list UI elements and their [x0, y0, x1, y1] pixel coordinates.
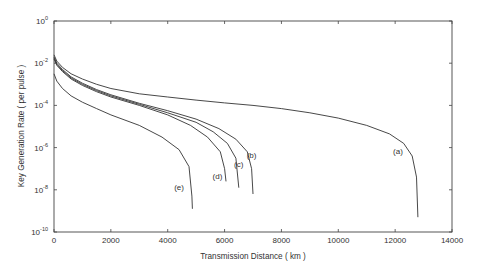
y-tick-label: 10-6 — [34, 142, 48, 153]
curve-c — [54, 58, 239, 188]
axis-ticks: 0200040006000800010000120001400010010-21… — [31, 15, 464, 245]
curve-label: (b) — [247, 151, 257, 160]
x-tick-label: 10000 — [327, 236, 350, 245]
x-tick-label: 8000 — [273, 236, 291, 245]
curve-b — [54, 57, 253, 194]
key-rate-vs-distance-chart: (a)(b)(c)(d)(e) 020004000600080001000012… — [0, 0, 484, 269]
y-tick-label: 10-8 — [34, 184, 48, 195]
curve-labels: (a)(b)(c)(d)(e) — [174, 147, 403, 192]
x-axis-label: Transmission Distance ( km ) — [200, 252, 306, 261]
y-tick-label: 10-10 — [31, 226, 48, 237]
x-tick-label: 0 — [52, 236, 57, 245]
x-tick-label: 4000 — [159, 236, 177, 245]
y-axis-label: Key Generation Rate ( per pulse ) — [17, 65, 26, 188]
x-tick-label: 2000 — [102, 236, 120, 245]
curve-e — [54, 74, 192, 209]
plot-canvas: (a)(b)(c)(d)(e) 020004000600080001000012… — [0, 0, 484, 269]
y-tick-label: 10-4 — [34, 99, 48, 110]
data-curves — [54, 55, 418, 217]
y-tick-label: 10-2 — [34, 57, 48, 68]
curve-label: (c) — [234, 160, 244, 169]
x-tick-label: 6000 — [216, 236, 234, 245]
curve-label: (e) — [174, 183, 184, 192]
axes-frame — [54, 21, 452, 232]
x-tick-label: 12000 — [384, 236, 407, 245]
curve-label: (a) — [393, 147, 403, 156]
curve-label: (d) — [213, 172, 223, 181]
curve-a — [54, 55, 418, 217]
y-tick-label: 100 — [36, 15, 48, 26]
x-tick-label: 14000 — [441, 236, 464, 245]
